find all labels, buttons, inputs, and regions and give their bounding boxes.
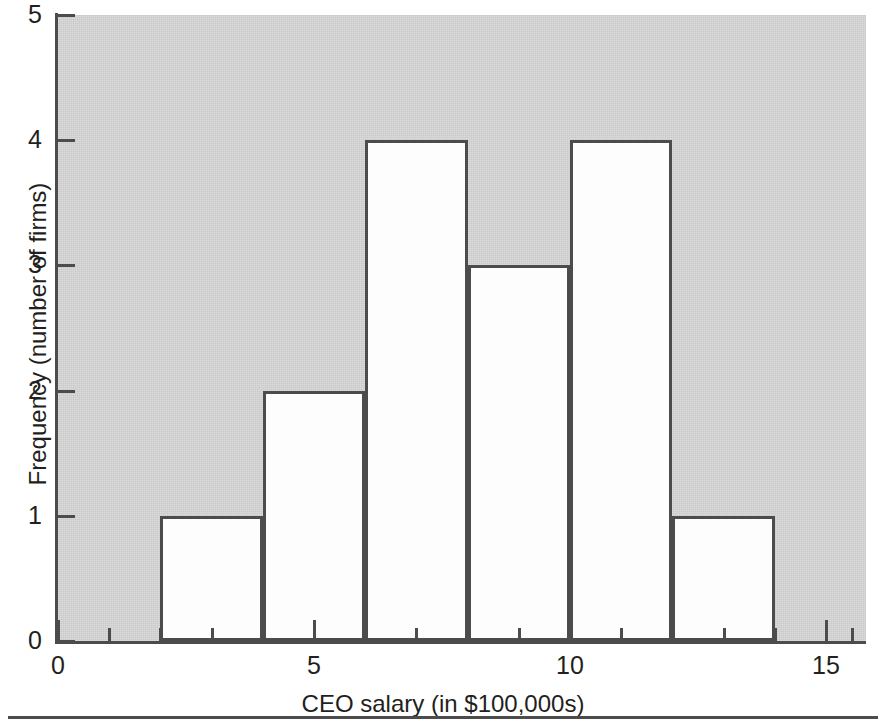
x-axis-tick-minor	[364, 628, 367, 642]
y-axis-title: Frequency (number of firms)	[24, 124, 52, 544]
x-axis-tick-minor	[415, 628, 418, 642]
x-axis-tick-label: 10	[540, 652, 600, 679]
y-axis-tick	[58, 640, 75, 643]
x-axis-tick-minor	[774, 628, 777, 642]
histogram-bar	[570, 140, 672, 641]
x-axis-tick-minor	[671, 628, 674, 642]
y-axis-tick	[58, 14, 75, 17]
x-axis-tick-label: 15	[796, 652, 856, 679]
histogram-figure: 012345 051015 Frequency (number of firms…	[0, 0, 886, 728]
x-axis-line	[55, 641, 866, 644]
figure-bottom-rule	[8, 716, 878, 719]
histogram-bar	[365, 140, 467, 641]
y-axis-tick	[58, 390, 75, 393]
x-axis-tick-minor	[620, 628, 623, 642]
x-axis-tick-major	[57, 620, 60, 642]
y-axis-tick-label: 5	[12, 2, 42, 27]
x-axis-tick-major	[569, 620, 572, 642]
x-axis-tick-minor	[159, 628, 162, 642]
x-axis-title: CEO salary (in $100,000s)	[0, 690, 886, 718]
histogram-bar	[672, 516, 774, 641]
plot-area	[58, 15, 866, 641]
histogram-bar	[160, 516, 262, 641]
y-axis-tick	[58, 139, 75, 142]
x-axis-tick-minor	[211, 628, 214, 642]
x-axis-tick-label: 5	[284, 652, 344, 679]
x-axis-tick-minor	[723, 628, 726, 642]
x-axis-tick-label: 0	[28, 652, 88, 679]
x-axis-tick-major	[313, 620, 316, 642]
x-axis-tick-major	[825, 620, 828, 642]
x-axis-tick-minor	[262, 628, 265, 642]
x-axis-tick-minor	[518, 628, 521, 642]
y-axis-tick	[58, 515, 75, 518]
x-axis-tick-minor	[851, 628, 854, 642]
y-axis-tick	[58, 264, 75, 267]
histogram-bar	[468, 265, 570, 641]
x-axis-tick-minor	[108, 628, 111, 642]
x-axis-tick-minor	[467, 628, 470, 642]
histogram-bar	[263, 391, 365, 641]
y-axis-line	[55, 13, 58, 644]
y-axis-tick-label: 0	[12, 628, 42, 653]
